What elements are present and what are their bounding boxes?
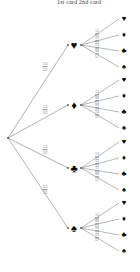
fraction-numerator: 13: [43, 104, 48, 109]
fraction-numerator: 12: [95, 233, 99, 237]
fraction-numerator: 13: [95, 173, 99, 177]
tree-node-dot: [80, 227, 82, 229]
fraction-denominator: 52: [43, 68, 48, 73]
fraction-numerator: 13: [95, 90, 99, 94]
second-card-probability-spade-spade: 1251: [95, 233, 99, 242]
fraction-denominator: 51: [95, 178, 99, 182]
tree-node-dot: [80, 104, 82, 106]
tree-edge: [81, 35, 119, 45]
tree-node-dot: [67, 104, 69, 106]
fraction-numerator: 13: [95, 110, 99, 114]
tree-edge: [81, 45, 119, 51]
second-card-probability-heart-spade: 1351: [95, 50, 99, 59]
fraction-numerator: 12: [95, 166, 99, 170]
first-card-suit-club: ♣: [70, 163, 77, 174]
second-card-suit-diamond: ♦: [122, 154, 126, 162]
tree-edge: [81, 168, 119, 190]
second-card-suit-spade: ♠: [122, 186, 126, 194]
tree-edge: [8, 138, 68, 168]
fraction-numerator: 13: [95, 103, 99, 107]
fraction-denominator: 52: [43, 191, 48, 196]
first-card-suit-diamond: ♦: [71, 100, 77, 111]
fraction-numerator: 13: [95, 159, 99, 163]
tree-edge: [81, 80, 119, 105]
tree-node-dot: [80, 167, 82, 169]
first-card-probability-spade: 1352: [43, 184, 48, 196]
second-card-suit-club: ♣: [122, 170, 127, 178]
second-card-probability-club-spade: 1351: [95, 173, 99, 182]
fraction-numerator: 12: [95, 97, 99, 101]
first-card-probability-club: 1352: [43, 144, 48, 156]
second-card-suit-club: ♣: [122, 108, 127, 116]
fraction-numerator: 13: [95, 226, 99, 230]
second-card-suit-spade: ♠: [122, 247, 126, 255]
fraction-numerator: 12: [95, 29, 99, 33]
fraction-denominator: 52: [43, 151, 48, 156]
second-card-suit-heart: ♥: [122, 15, 127, 23]
fraction-numerator: 13: [95, 220, 99, 224]
tree-edge: [8, 138, 68, 228]
tree-node-dot: [80, 44, 82, 46]
second-card-suit-diamond: ♦: [122, 92, 126, 100]
fraction-denominator: 52: [43, 111, 48, 116]
second-card-suit-diamond: ♦: [122, 215, 126, 223]
second-card-suit-spade: ♠: [122, 124, 126, 132]
fraction-numerator: 13: [95, 152, 99, 156]
tree-edge: [8, 45, 68, 138]
second-card-suit-club: ♣: [122, 231, 127, 239]
tree-edge: [81, 203, 119, 228]
tree-edge: [81, 96, 119, 105]
first-card-suit-spade: ♠: [71, 223, 77, 234]
first-card-suit-heart: ♥: [71, 40, 78, 51]
fraction-denominator: 51: [95, 238, 99, 242]
fraction-denominator: 51: [95, 55, 99, 59]
tree-edge: [8, 105, 68, 138]
tree-node-dot: [67, 227, 69, 229]
tree-edge: [81, 45, 119, 67]
tree-node-dot: [67, 167, 69, 169]
second-card-suit-spade: ♠: [122, 63, 126, 71]
fraction-numerator: 13: [95, 50, 99, 54]
second-card-suit-diamond: ♦: [122, 31, 126, 39]
fraction-numerator: 13: [95, 213, 99, 217]
second-card-suit-heart: ♥: [122, 199, 127, 207]
first-card-probability-diamond: 1352: [43, 104, 48, 116]
second-card-probability-diamond-spade: 1351: [95, 110, 99, 119]
second-card-suit-club: ♣: [122, 47, 127, 55]
tree-edge: [81, 168, 119, 174]
fraction-numerator: 13: [43, 144, 48, 149]
second-card-suit-heart: ♥: [122, 76, 127, 84]
fraction-numerator: 13: [43, 184, 48, 189]
tree-edge: [81, 158, 119, 168]
second-card-suit-heart: ♥: [122, 138, 127, 146]
probability-tree-diagram: 1st card 2nd card ♥♥♦♣♠♦♥♦♣♠♣♥♦♣♠♠♥♦♣♠ 1…: [0, 0, 140, 272]
tree-node-dot: [67, 44, 69, 46]
fraction-numerator: 13: [43, 61, 48, 66]
tree-edge: [81, 19, 119, 45]
fraction-denominator: 51: [95, 115, 99, 119]
fraction-numerator: 13: [95, 43, 99, 47]
tree-edge: [81, 219, 119, 228]
tree-node-dot: [7, 137, 9, 139]
tree-edge: [81, 142, 119, 168]
fraction-numerator: 13: [95, 36, 99, 40]
first-card-probability-heart: 1352: [43, 61, 48, 73]
